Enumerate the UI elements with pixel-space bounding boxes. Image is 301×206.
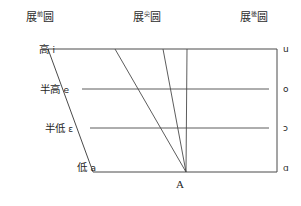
column-header-back: 展後圆 bbox=[240, 12, 268, 23]
converging-line-2 bbox=[163, 49, 186, 172]
apex-label-a: A bbox=[176, 179, 184, 190]
vowel-label-u: u bbox=[283, 45, 289, 54]
height-label-low-zh: 低 bbox=[77, 162, 87, 173]
height-label-low: 低a bbox=[77, 163, 96, 174]
header-central-zh: 展 bbox=[133, 11, 144, 23]
height-label-half-low-ipa: ɛ bbox=[68, 124, 73, 134]
vowel-label-o: o bbox=[283, 85, 289, 94]
header-front-zh2: 圆 bbox=[43, 11, 54, 23]
converging-line-1 bbox=[115, 49, 186, 172]
trapezoid-drawing bbox=[0, 0, 301, 206]
height-label-half-high: 半高e bbox=[40, 85, 69, 96]
vowel-chart-figure: 展前圆 展尖圆 展後圆 高i 半高e 半低ɛ 低a u o ɔ ɑ A bbox=[0, 0, 301, 206]
vowel-label-script-a: ɑ bbox=[283, 164, 289, 173]
height-label-high-ipa: i bbox=[52, 45, 55, 55]
left-slant-edge bbox=[48, 49, 93, 172]
height-label-half-low-zh: 半低 bbox=[45, 123, 65, 134]
converging-line-3 bbox=[186, 49, 187, 172]
height-label-high-zh: 高 bbox=[39, 44, 49, 55]
column-header-central: 展尖圆 bbox=[133, 12, 161, 23]
height-label-half-high-zh: 半高 bbox=[40, 84, 60, 95]
vowel-label-open-o: ɔ bbox=[283, 124, 288, 133]
header-back-zh: 展 bbox=[240, 11, 251, 23]
header-back-zh2: 圆 bbox=[257, 11, 268, 23]
height-label-low-ipa: a bbox=[90, 163, 96, 173]
header-central-zh2: 圆 bbox=[150, 11, 161, 23]
height-label-high: 高i bbox=[39, 45, 55, 56]
height-label-half-high-ipa: e bbox=[63, 85, 69, 95]
header-front-zh: 展 bbox=[26, 11, 37, 23]
height-label-half-low: 半低ɛ bbox=[45, 124, 73, 135]
column-header-front: 展前圆 bbox=[26, 12, 54, 23]
